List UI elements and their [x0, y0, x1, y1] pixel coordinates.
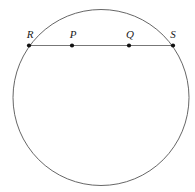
point-label-Q: Q [126, 28, 134, 40]
figure-canvas: R P Q S [0, 0, 195, 192]
point-label-P: P [69, 28, 77, 40]
point-marker-R [27, 43, 31, 47]
circle-outline [13, 10, 189, 186]
point-marker-S [171, 43, 175, 47]
point-label-R: R [26, 28, 34, 40]
point-labels-group: R P Q S [26, 28, 177, 40]
point-marker-P [70, 43, 74, 47]
point-label-S: S [170, 28, 176, 40]
point-marker-Q [127, 43, 131, 47]
geometry-diagram-svg: R P Q S [0, 0, 195, 192]
